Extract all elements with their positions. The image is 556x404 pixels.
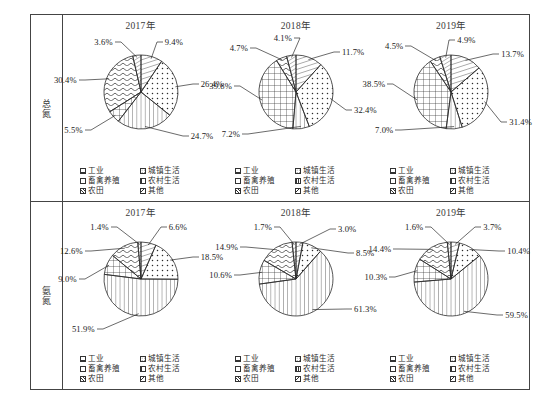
- legend-item-label: 其他: [148, 186, 164, 195]
- legend-item-label: 其他: [458, 374, 474, 383]
- pie-value-label: 39.8%: [209, 81, 232, 91]
- leader-line: [234, 86, 262, 100]
- leader-line: [85, 115, 115, 130]
- legend-item-industry: 工业: [80, 166, 140, 175]
- legend-item-industry: 工业: [235, 166, 295, 175]
- legend-item-label: 工业: [398, 166, 414, 175]
- legend-swatch-icon: [390, 178, 396, 184]
- legend-swatch-icon: [235, 168, 241, 174]
- legend-item-other: 其他: [140, 374, 202, 383]
- legend-item-farmland: 农田: [390, 374, 450, 383]
- legend-item-livestock: 畜禽养殖: [235, 364, 295, 373]
- legend-swatch-icon: [450, 356, 456, 362]
- chart-cell-4: 2018年 3.0%8.5%61.3%10.6%14.9%1.7% 工业畜禽养殖…: [218, 202, 373, 389]
- pie-value-label: 3.0%: [338, 224, 356, 234]
- pie-value-label: 7.2%: [222, 129, 240, 139]
- pie-value-label: 10.3%: [365, 272, 388, 282]
- leader-line: [466, 54, 500, 60]
- pie-wrap-0: 9.4%26.4%24.7%5.5%30.4%3.6%: [63, 31, 218, 153]
- legend-item-other: 其他: [140, 186, 202, 195]
- pie-wrap-3: 6.6%18.5%51.9%9.0%12.6%1.4%: [63, 218, 218, 340]
- legend-item-urban: 城镇生活: [450, 354, 512, 363]
- pie-wrap-4: 3.0%8.5%61.3%10.6%14.9%1.7%: [218, 218, 373, 340]
- leader-line: [299, 229, 336, 244]
- legend-item-industry: 工业: [80, 354, 140, 363]
- legend-item-label: 城镇生活: [458, 354, 490, 363]
- legend-item-urban: 城镇生活: [140, 354, 202, 363]
- legend-swatch-icon: [390, 188, 396, 194]
- legend-item-label: 其他: [148, 374, 164, 383]
- legend-item-label: 畜禽养殖: [398, 176, 430, 185]
- pie-wrap-5: 3.7%10.4%59.5%10.3%14.4%1.6%: [374, 218, 529, 340]
- chart-cell-1: 2018年 11.7%32.4%7.2%39.8%4.7%4.1% 工业畜禽养殖…: [218, 15, 373, 201]
- legend-swatch-icon: [450, 178, 456, 184]
- legend-item-rural: 农村生活: [140, 176, 202, 185]
- legend-column: 城镇生活农村生活其他: [295, 166, 357, 195]
- pie-value-label: 30.4%: [54, 75, 77, 85]
- legend-swatch-icon: [80, 188, 86, 194]
- legend-item-label: 工业: [243, 354, 259, 363]
- legend-item-farmland: 农田: [80, 186, 140, 195]
- leader-line: [308, 52, 340, 60]
- pie-value-label: 9.4%: [165, 37, 183, 47]
- leader-line: [79, 79, 109, 80]
- leader-line: [387, 84, 417, 100]
- pie-value-label: 59.5%: [505, 310, 528, 320]
- year-title-3: 2017年: [63, 205, 218, 219]
- pie-value-label: 6.6%: [169, 222, 187, 232]
- legend-item-label: 畜禽养殖: [243, 364, 275, 373]
- pie-value-label: 4.7%: [230, 43, 248, 53]
- legend-swatch-icon: [80, 366, 86, 372]
- row-label-ammonia-nitrogen: 氨氮: [31, 202, 63, 389]
- legend-swatch-icon: [140, 178, 146, 184]
- legend-swatch-icon: [140, 376, 146, 382]
- legend-item-livestock: 畜禽养殖: [80, 176, 140, 185]
- legend-swatch-icon: [235, 366, 241, 372]
- pie-value-label: 9.0%: [58, 274, 76, 284]
- legend-item-rural: 农村生活: [295, 364, 357, 373]
- pie-wrap-2: 13.7%31.4%7.0%38.5%4.5%4.9%: [374, 31, 529, 153]
- pie-value-label: 10.4%: [507, 246, 530, 256]
- row-cells-ammonia-nitrogen: 2017年 6.6%18.5%51.9%9.0%12.6%1.4% 工业畜禽养殖…: [63, 202, 529, 389]
- leader-line: [389, 271, 417, 277]
- legend-swatch-icon: [80, 356, 86, 362]
- pie-value-label: 3.7%: [483, 222, 501, 232]
- legend-item-urban: 城镇生活: [450, 166, 512, 175]
- legend-item-label: 其他: [458, 186, 474, 195]
- legend-swatch-icon: [80, 376, 86, 382]
- legend-item-label: 工业: [88, 166, 104, 175]
- leader-line: [291, 38, 300, 58]
- leader-line: [405, 46, 436, 61]
- pie-value-label: 11.7%: [342, 47, 364, 57]
- legend-item-label: 农田: [88, 186, 104, 195]
- legend-swatch-icon: [295, 188, 301, 194]
- legend-swatch-icon: [450, 188, 456, 194]
- leader-line: [240, 247, 277, 250]
- legend-item-label: 农村生活: [148, 176, 180, 185]
- legend-item-label: 农村生活: [303, 364, 335, 373]
- pie-value-label: 31.4%: [509, 117, 532, 127]
- legend-column: 城镇生活农村生活其他: [140, 354, 202, 383]
- legend-column: 城镇生活农村生活其他: [450, 354, 512, 383]
- legend-item-industry: 工业: [235, 354, 295, 363]
- legend-swatch-icon: [450, 376, 456, 382]
- pie-value-label: 51.9%: [72, 324, 95, 334]
- pie-value-label: 5.5%: [64, 125, 82, 135]
- legend-5: 工业畜禽养殖农田城镇生活农村生活其他: [374, 354, 529, 383]
- legend-item-farmland: 农田: [235, 186, 295, 195]
- row-label-text: 氨氮: [40, 286, 53, 305]
- legend-column: 工业畜禽养殖农田: [235, 354, 295, 383]
- pie-value-label: 24.7%: [191, 131, 214, 141]
- legend-column: 工业畜禽养殖农田: [390, 354, 450, 383]
- leader-line: [111, 227, 140, 244]
- leader-line: [464, 311, 503, 315]
- legend-item-rural: 农村生活: [295, 176, 357, 185]
- legend-swatch-icon: [235, 356, 241, 362]
- chart-cell-3: 2017年 6.6%18.5%51.9%9.0%12.6%1.4% 工业畜禽养殖…: [63, 202, 218, 389]
- legend-item-label: 城镇生活: [148, 166, 180, 175]
- legend-item-livestock: 畜禽养殖: [235, 176, 295, 185]
- leader-line: [145, 127, 189, 137]
- pie-value-label: 14.4%: [369, 244, 392, 254]
- row-label-text: 总氮: [40, 99, 53, 118]
- legend-item-label: 农村生活: [148, 364, 180, 373]
